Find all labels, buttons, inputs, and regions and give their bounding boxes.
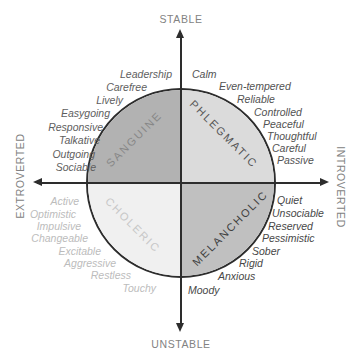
horizontal-axis-line: [37, 182, 322, 184]
trait-label: Lively: [96, 94, 123, 107]
trait-label: Outgoing: [52, 148, 95, 161]
axis-label-stable: STABLE: [159, 13, 202, 25]
trait-label: Talkative: [59, 134, 100, 147]
arrow-up-icon: [176, 29, 184, 38]
trait-label: Restless: [91, 269, 131, 282]
trait-label: Unsociable: [272, 207, 324, 220]
trait-label: Sociable: [56, 161, 96, 174]
trait-label: Calm: [192, 68, 217, 81]
arrow-right-icon: [320, 178, 329, 186]
axis-label-unstable: UNSTABLE: [151, 338, 210, 350]
arrow-down-icon: [176, 323, 184, 332]
trait-label: Quiet: [277, 194, 302, 207]
trait-label: Touchy: [123, 282, 156, 295]
trait-label: Passive: [277, 154, 314, 167]
trait-label: Leadership: [120, 68, 172, 81]
trait-label: Easygoing: [61, 107, 110, 120]
trait-label: Pessimistic: [262, 232, 315, 245]
trait-label: Rigid: [239, 257, 263, 270]
trait-label: Moody: [188, 284, 220, 297]
axis-label-extroverted: EXTROVERTED: [14, 133, 26, 218]
trait-label: Even-tempered: [219, 80, 291, 93]
trait-label: Carefree: [106, 81, 147, 94]
arrow-left-icon: [33, 178, 42, 186]
personality-quadrant-diagram: STABLE UNSTABLE EXTROVERTED INTROVERTED …: [0, 0, 358, 362]
vertical-axis-line: [180, 33, 182, 327]
axis-label-introverted: INTROVERTED: [335, 146, 347, 228]
trait-label: Responsive: [48, 121, 103, 134]
trait-label: Changeable: [31, 232, 88, 245]
trait-label: Anxious: [218, 270, 255, 283]
trait-label: Active: [50, 195, 79, 208]
trait-label: Reliable: [237, 93, 275, 106]
